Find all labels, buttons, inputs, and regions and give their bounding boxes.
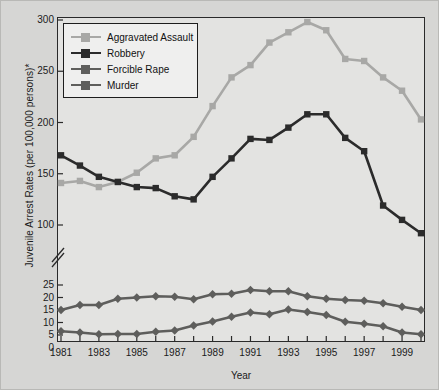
data-point	[134, 184, 140, 190]
data-point	[417, 306, 425, 314]
data-point	[96, 184, 102, 190]
data-point	[57, 306, 65, 314]
data-point	[265, 310, 273, 318]
data-point	[208, 290, 216, 298]
data-point	[190, 196, 196, 202]
data-point	[303, 308, 311, 316]
data-point	[246, 286, 254, 294]
legend-swatch-icon	[71, 47, 101, 59]
data-point	[96, 174, 102, 180]
data-point	[209, 103, 215, 109]
legend-label: Aggravated Assault	[107, 32, 193, 43]
data-point	[77, 162, 83, 168]
data-point	[189, 321, 197, 329]
data-point	[418, 116, 424, 122]
data-point	[152, 328, 160, 336]
legend-swatch-icon	[71, 63, 101, 75]
data-point	[209, 174, 215, 180]
series-line	[61, 310, 421, 335]
data-point	[228, 74, 234, 80]
data-point	[58, 152, 64, 158]
data-point	[360, 297, 368, 305]
data-point	[133, 330, 141, 338]
data-point	[133, 293, 141, 301]
data-point	[342, 56, 348, 62]
series-murder	[57, 305, 425, 338]
data-point	[361, 148, 367, 154]
data-point	[380, 202, 386, 208]
data-point	[153, 185, 159, 191]
x-axis-ticks	[61, 336, 421, 342]
legend-item-murder[interactable]: Murder	[64, 77, 197, 93]
series-robbery	[58, 111, 424, 236]
data-point	[115, 179, 121, 185]
data-point	[247, 136, 253, 142]
data-point	[189, 295, 197, 303]
data-point	[361, 58, 367, 64]
data-point	[76, 328, 84, 336]
data-point	[322, 311, 330, 319]
data-point	[265, 287, 273, 295]
data-point	[95, 330, 103, 338]
series-forcible-rape	[57, 286, 425, 314]
data-point	[379, 299, 387, 307]
data-point	[190, 134, 196, 140]
legend-item-robbery[interactable]: Robbery	[64, 45, 197, 61]
data-point	[57, 327, 65, 335]
data-point	[114, 330, 122, 338]
data-point	[76, 301, 84, 309]
data-point	[208, 317, 216, 325]
data-point	[399, 88, 405, 94]
chart-page: Juvenile Arrest Rates (per 100,000 perso…	[0, 0, 439, 390]
data-point	[266, 39, 272, 45]
data-point	[304, 111, 310, 117]
data-point	[360, 320, 368, 328]
data-point	[322, 295, 330, 303]
data-point	[152, 292, 160, 300]
data-point	[95, 301, 103, 309]
data-point	[170, 293, 178, 301]
data-point	[398, 328, 406, 336]
data-point	[380, 74, 386, 80]
data-point	[114, 295, 122, 303]
data-point	[399, 217, 405, 223]
data-point	[227, 290, 235, 298]
data-point	[323, 27, 329, 33]
legend-swatch-icon	[71, 31, 101, 43]
data-point	[398, 303, 406, 311]
legend-item-aggravated-assault[interactable]: Aggravated Assault	[64, 29, 197, 45]
data-point	[170, 326, 178, 334]
legend-label: Robbery	[107, 48, 145, 59]
data-point	[341, 318, 349, 326]
data-point	[153, 155, 159, 161]
legend-label: Forcible Rape	[107, 64, 169, 75]
legend-swatch-icon	[71, 79, 101, 91]
data-point	[134, 170, 140, 176]
legend-item-forcible-rape[interactable]: Forcible Rape	[64, 61, 197, 77]
data-point	[304, 19, 310, 25]
data-point	[171, 152, 177, 158]
data-point	[285, 124, 291, 130]
data-point	[247, 62, 253, 68]
data-point	[284, 305, 292, 313]
y-axis-break-mark	[52, 248, 64, 267]
data-point	[341, 296, 349, 304]
data-point	[284, 287, 292, 295]
data-point	[171, 193, 177, 199]
legend-label: Murder	[107, 80, 139, 91]
data-point	[77, 178, 83, 184]
data-point	[417, 330, 425, 338]
data-point	[285, 29, 291, 35]
data-point	[58, 180, 64, 186]
data-point	[227, 313, 235, 321]
data-point	[266, 137, 272, 143]
data-point	[323, 111, 329, 117]
data-point	[342, 135, 348, 141]
data-point	[303, 292, 311, 300]
data-point	[418, 230, 424, 236]
series-line	[61, 114, 421, 233]
data-point	[228, 155, 234, 161]
chart-legend: Aggravated AssaultRobberyForcible RapeMu…	[63, 23, 198, 98]
data-point	[379, 322, 387, 330]
data-point	[246, 308, 254, 316]
